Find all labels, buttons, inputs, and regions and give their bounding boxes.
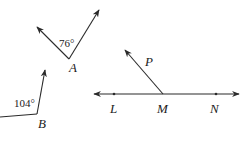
angle-a-measure: 76° bbox=[59, 37, 74, 49]
ray-b-up bbox=[37, 70, 45, 114]
ray-a-right bbox=[69, 10, 99, 59]
vertex-a-label: A bbox=[68, 60, 77, 75]
point-l bbox=[113, 93, 116, 96]
vertex-b-label: B bbox=[38, 116, 46, 131]
angle-a: 76° A bbox=[37, 10, 99, 75]
point-n bbox=[215, 93, 218, 96]
angle-b: 104° B bbox=[0, 70, 46, 131]
geometry-diagram: 76° A 104° B L M N P bbox=[0, 0, 248, 146]
point-l-label: L bbox=[109, 101, 117, 116]
ray-b-left bbox=[0, 114, 37, 117]
point-p-label: P bbox=[144, 54, 153, 69]
ray-mp bbox=[125, 50, 163, 94]
angle-b-measure: 104° bbox=[14, 97, 35, 109]
point-n-label: N bbox=[209, 101, 220, 116]
line-lmn: L M N P bbox=[94, 50, 239, 116]
point-m-label: M bbox=[156, 101, 169, 116]
